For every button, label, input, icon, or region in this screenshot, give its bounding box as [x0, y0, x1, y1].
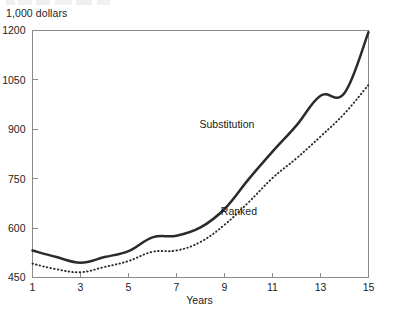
x-tick-label: 3 — [78, 281, 84, 293]
y-tick-label: 1200 — [2, 24, 26, 36]
data-series — [33, 32, 369, 272]
x-tick-label: 13 — [315, 281, 327, 293]
series-label-ranked: Ranked — [221, 205, 257, 217]
x-tick-label: 15 — [363, 281, 375, 293]
chart-figure: 1,000 dollars 45060075090010501200 13579… — [0, 0, 399, 313]
x-tick-label: 7 — [174, 281, 180, 293]
series-line-ranked — [33, 85, 369, 272]
y-tick-label: 750 — [8, 173, 26, 185]
axes — [33, 31, 369, 278]
series-line-substitution — [33, 32, 369, 263]
x-tick-label: 9 — [222, 281, 228, 293]
x-axis-title: Years — [0, 294, 399, 306]
x-tick-label: 1 — [30, 281, 36, 293]
y-tick-label: 450 — [8, 271, 26, 283]
x-tick-label: 11 — [267, 281, 278, 293]
y-tick-label: 1050 — [2, 74, 26, 86]
y-tick-label: 900 — [8, 123, 26, 135]
axis-frame — [33, 31, 369, 278]
line-chart-plot: 45060075090010501200 13579111315 Substit… — [0, 0, 399, 313]
x-axis-ticks: 13579111315 — [30, 273, 375, 293]
series-label-substitution: Substitution — [199, 118, 254, 130]
x-tick-label: 5 — [126, 281, 132, 293]
y-tick-label: 600 — [8, 222, 26, 234]
